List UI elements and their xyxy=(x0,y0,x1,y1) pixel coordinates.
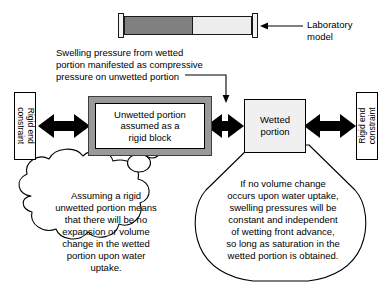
laboratory-model-label-line2: model xyxy=(307,31,383,43)
swelling-pressure-note: Swelling pressure from wetted portion ma… xyxy=(56,47,236,82)
specimen-right-endcap xyxy=(252,13,258,38)
right-rigid-end-constraint-box: Rigid end constraint xyxy=(356,92,378,160)
specimen-wetted-segment xyxy=(193,17,251,34)
left-constraint-line1: Rigid end xyxy=(25,108,35,145)
unwetted-label-line2: assumed as a xyxy=(114,120,186,132)
wetted-label-line2: portion xyxy=(260,126,290,138)
laboratory-model-specimen xyxy=(118,13,258,38)
cloud-text-line6: portion upon water xyxy=(33,250,179,262)
cloud-text-line4: expansion or volume xyxy=(33,226,179,238)
laboratory-model-label: Laboratory model xyxy=(307,19,383,43)
specimen-unwetted-segment xyxy=(125,17,193,34)
cloud-text-line2: unwetted portion means xyxy=(33,202,179,214)
cloud-callout-text: Assuming a rigid unwetted portion means … xyxy=(33,190,179,274)
balloon-text-line4: constant and independent xyxy=(198,214,368,226)
pressure-note-line1: Swelling pressure from wetted xyxy=(56,47,236,59)
unwetted-label-line3: rigid block xyxy=(114,132,186,144)
pressure-note-line2: portion manifested as compressive xyxy=(56,59,236,71)
pressure-note-line3: pressure on unwetted portion xyxy=(56,71,236,83)
balloon-text-line3: swelling pressures will be xyxy=(198,202,368,214)
lab-model-leader-line xyxy=(260,23,303,30)
unwetted-portion-label: Unwetted portion assumed as a rigid bloc… xyxy=(114,109,186,144)
balloon-callout-text: If no volume change occurs upon water up… xyxy=(198,178,368,262)
wetted-portion-box: Wetted portion xyxy=(244,99,306,153)
arrow-unwetted-to-wetted xyxy=(206,114,244,138)
cloud-text-line1: Assuming a rigid xyxy=(33,190,179,202)
cloud-text-line7: uptake. xyxy=(33,262,179,274)
balloon-text-line6: so long as saturation in the xyxy=(198,238,368,250)
balloon-text-line2: occurs upon water uptake, xyxy=(198,190,368,202)
cloud-text-line5: change in the wetted xyxy=(33,238,179,250)
swelling-pressure-diagram: Laboratory model Swelling pressure from … xyxy=(0,0,392,303)
wetted-label-line1: Wetted xyxy=(260,114,290,126)
unwetted-portion-box: Unwetted portion assumed as a rigid bloc… xyxy=(89,97,211,155)
laboratory-model-label-line1: Laboratory xyxy=(307,19,383,31)
left-constraint-line2: constraint xyxy=(15,108,25,145)
specimen-barrel xyxy=(124,16,252,35)
left-rigid-end-constraint-label: Rigid end constraint xyxy=(15,108,35,145)
right-constraint-line1: Rigid end xyxy=(357,108,367,145)
balloon-text-line7: wetted portion is obtained. xyxy=(198,250,368,262)
balloon-text-line1: If no volume change xyxy=(198,178,368,190)
unwetted-label-line1: Unwetted portion xyxy=(114,109,186,121)
right-rigid-end-constraint-label: Rigid end constraint xyxy=(357,108,377,145)
left-rigid-end-constraint-box: Rigid end constraint xyxy=(14,92,36,160)
cloud-text-line3: that there will be no xyxy=(33,214,179,226)
wetted-portion-label: Wetted portion xyxy=(260,114,290,137)
right-constraint-line2: constraint xyxy=(367,108,377,145)
arrow-wetted-to-right-constraint xyxy=(304,114,356,138)
balloon-text-line5: of wetting front advance, xyxy=(198,226,368,238)
arrow-left-constraint-to-unwetted xyxy=(38,114,90,138)
